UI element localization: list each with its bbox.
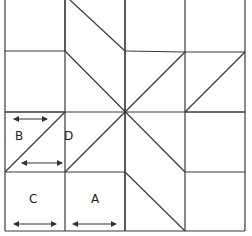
label-b: B [15, 129, 23, 143]
quilt-block-diagram: B D C A [0, 0, 252, 236]
label-a: A [91, 192, 100, 206]
star-diagonals [5, 0, 245, 231]
label-c: C [29, 192, 37, 206]
label-d: D [64, 129, 73, 143]
